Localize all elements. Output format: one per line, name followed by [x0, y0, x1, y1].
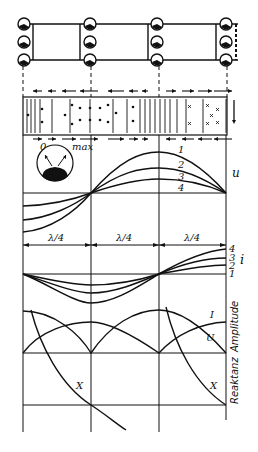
x-marks [188, 104, 219, 125]
reactance-curve-label-right: X [210, 381, 217, 391]
current-curve-label-1: 1 [229, 269, 235, 279]
amplitude-axis-label: Amplitude [230, 301, 240, 352]
voltage-curve-label-4: 4 [178, 183, 184, 193]
current-curves [23, 249, 226, 303]
amplitude-voltage-label: U [206, 333, 214, 343]
lamp-icons [18, 18, 232, 66]
transmission-line [24, 24, 238, 60]
voltage-curve-label-2: 2 [178, 160, 184, 170]
current-axis-label: i [240, 253, 244, 266]
meter-max-label: max [72, 142, 93, 152]
standing-wave-diagram [0, 0, 258, 452]
amplitude-current-label: I [210, 310, 214, 320]
voltage-curve-label-1: 1 [178, 145, 184, 155]
reactance-curve-label-left: X [76, 381, 83, 391]
segment-label-2: λ/4 [116, 233, 132, 243]
reactance-axis-label: Reaktanz [230, 357, 240, 404]
meter-min-label: 0 [40, 142, 46, 152]
current-arrows-top [33, 91, 234, 139]
voltage-curve-label-3: 3 [178, 172, 184, 182]
segment-label-3: λ/4 [184, 233, 200, 243]
field-distribution-box [23, 97, 227, 135]
voltage-axis-label: u [232, 167, 240, 179]
amplitude-curves [23, 310, 226, 353]
segment-label-1: λ/4 [48, 233, 64, 243]
